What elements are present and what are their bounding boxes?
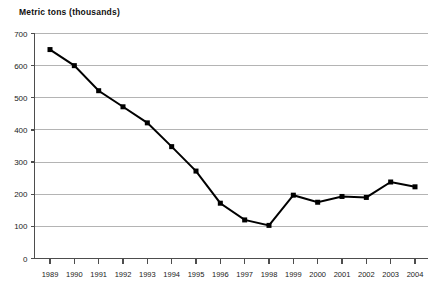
- y-tick-label: 700: [14, 30, 28, 39]
- y-tick-label: 200: [14, 190, 28, 199]
- data-point-marker: [96, 88, 101, 93]
- x-tick-label: 2003: [382, 270, 399, 279]
- data-point-marker: [169, 144, 174, 149]
- x-tick-label: 1995: [188, 270, 205, 279]
- data-point-marker: [315, 200, 320, 205]
- x-tick-label: 1994: [163, 270, 180, 279]
- x-tick-label: 2001: [334, 270, 351, 279]
- x-tick-label: 1996: [212, 270, 229, 279]
- y-tick-label: 500: [14, 94, 28, 103]
- data-point-marker: [72, 63, 77, 68]
- x-tick-label: 1998: [261, 270, 278, 279]
- x-tick-label: 1991: [90, 270, 107, 279]
- data-point-marker: [242, 217, 247, 222]
- data-line: [50, 50, 415, 226]
- data-markers: [48, 47, 418, 228]
- x-tick-labels: 1989199019911992199319941995199619971998…: [42, 270, 424, 279]
- data-point-marker: [145, 120, 150, 125]
- line-chart-plot: 0100200300400500600700 19891990199119921…: [0, 0, 439, 302]
- y-tick-label: 100: [14, 222, 28, 231]
- x-axis: [35, 259, 429, 264]
- data-point-marker: [388, 180, 393, 185]
- y-tick-label: 300: [14, 158, 28, 167]
- data-point-marker: [194, 169, 199, 174]
- gridlines: [35, 34, 429, 227]
- data-point-marker: [364, 195, 369, 200]
- x-tick-label: 1993: [139, 270, 156, 279]
- x-tick-label: 2000: [309, 270, 326, 279]
- data-point-marker: [121, 104, 126, 109]
- x-tick-label: 2002: [358, 270, 375, 279]
- data-point-marker: [48, 47, 53, 52]
- x-tick-label: 1989: [42, 270, 59, 279]
- data-point-marker: [218, 201, 223, 206]
- x-tick-label: 1992: [115, 270, 132, 279]
- x-tick-label: 1997: [236, 270, 253, 279]
- x-tick-label: 2004: [407, 270, 424, 279]
- y-axis: [31, 34, 35, 259]
- x-tick-label: 1990: [66, 270, 83, 279]
- data-point-marker: [340, 194, 345, 199]
- data-point-marker: [291, 193, 296, 198]
- y-tick-labels: 0100200300400500600700: [14, 30, 28, 264]
- y-tick-label: 400: [14, 126, 28, 135]
- x-tick-label: 1999: [285, 270, 302, 279]
- data-point-marker: [413, 184, 418, 189]
- y-tick-label: 0: [23, 255, 28, 264]
- y-tick-label: 600: [14, 62, 28, 71]
- data-point-marker: [267, 223, 272, 228]
- chart-container: Metric tons (thousands) 0100200300400500…: [0, 0, 439, 302]
- series-line: [50, 50, 415, 226]
